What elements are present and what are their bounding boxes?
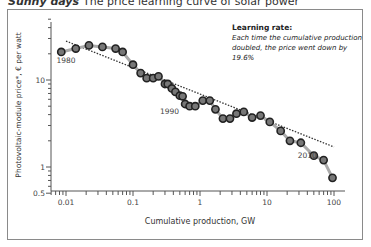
data-point bbox=[179, 93, 186, 100]
data-point bbox=[99, 43, 106, 50]
y-tick-label: 10 bbox=[35, 76, 45, 85]
x-tick-label: 10 bbox=[262, 198, 272, 207]
learning-rate-note: Learning rate: Each time the cumulative … bbox=[232, 23, 367, 63]
data-point bbox=[266, 118, 273, 125]
data-point bbox=[206, 97, 213, 104]
data-point bbox=[286, 137, 293, 144]
data-point bbox=[233, 110, 240, 117]
data-point bbox=[277, 127, 284, 134]
data-point bbox=[212, 106, 219, 113]
x-axis-ticks bbox=[51, 191, 334, 196]
data-point bbox=[226, 115, 233, 122]
data-point bbox=[155, 73, 162, 80]
x-tick-label: 0.01 bbox=[58, 198, 75, 207]
data-point bbox=[192, 103, 199, 110]
year-label: 1990 bbox=[160, 107, 179, 116]
x-tick-label: 100 bbox=[327, 198, 342, 207]
y-axis-ticks bbox=[46, 19, 51, 193]
data-point bbox=[129, 61, 136, 68]
note-heading: Learning rate: bbox=[232, 23, 367, 33]
year-label: 2010 bbox=[298, 151, 317, 160]
y-tick-label: 1 bbox=[40, 163, 45, 172]
data-point bbox=[329, 174, 336, 181]
data-point bbox=[199, 97, 206, 104]
x-tick-labels: 0.010.1110100 bbox=[58, 198, 342, 207]
x-tick-label: 0.1 bbox=[127, 198, 139, 207]
data-point bbox=[249, 114, 256, 121]
data-point bbox=[85, 42, 92, 49]
y-tick-label: 0.5 bbox=[33, 189, 45, 198]
data-point bbox=[240, 108, 247, 115]
x-tick-label: 1 bbox=[198, 198, 203, 207]
series-line bbox=[61, 45, 332, 178]
data-point bbox=[257, 112, 264, 119]
note-line-1: Each time the cumulative production bbox=[232, 33, 367, 43]
y-tick-labels: 0.5110 bbox=[33, 76, 45, 198]
y-axis-label: Photovoltaic-module price*, € per watt bbox=[14, 32, 23, 177]
x-axis-label: Cumulative production, GW bbox=[145, 217, 255, 226]
year-label: 1980 bbox=[56, 56, 75, 65]
data-point bbox=[297, 139, 304, 146]
data-point bbox=[58, 48, 65, 55]
data-point bbox=[219, 115, 226, 122]
data-point bbox=[72, 45, 79, 52]
data-point bbox=[320, 157, 327, 164]
note-line-2: doubled, the price went down by 19.6% bbox=[232, 43, 367, 63]
data-point bbox=[112, 45, 119, 52]
data-point bbox=[119, 48, 126, 55]
